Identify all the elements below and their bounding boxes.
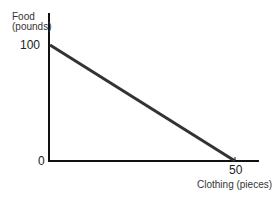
x-tick-label-50: 50	[229, 164, 242, 176]
y-axis-label-line2: (pounds)	[12, 22, 51, 32]
chart: Food (pounds) 100 0 50 Clothing (pieces)	[0, 0, 275, 202]
y-tick-label-100: 100	[20, 39, 40, 51]
frontier-line	[50, 45, 235, 161]
x-axis-label: Clothing (pieces)	[197, 180, 272, 190]
y-tick-label-0: 0	[38, 155, 45, 167]
